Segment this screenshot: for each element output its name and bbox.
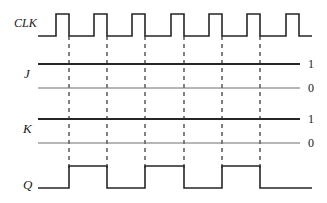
dashed-guide-group (69, 36, 260, 170)
timing-diagram-svg: CLK J 1 0 K 1 0 Q (0, 0, 327, 203)
level-label-k-zero: 0 (308, 136, 314, 150)
signal-row-j: J 1 0 (24, 57, 314, 95)
signal-row-k: K 1 0 (22, 112, 314, 150)
level-label-j-one: 1 (308, 57, 314, 71)
waveform-clk (38, 14, 312, 36)
signal-label-clk: CLK (14, 16, 38, 30)
signal-row-clk: CLK (14, 14, 312, 36)
timing-diagram-canvas: CLK J 1 0 K 1 0 Q (0, 0, 327, 203)
signal-label-q: Q (23, 177, 33, 192)
level-label-j-zero: 0 (308, 81, 314, 95)
signal-label-k: K (22, 121, 33, 136)
signal-row-q: Q (23, 166, 312, 192)
waveform-q (38, 166, 312, 188)
signal-label-j: J (24, 66, 31, 81)
level-label-k-one: 1 (308, 112, 314, 126)
